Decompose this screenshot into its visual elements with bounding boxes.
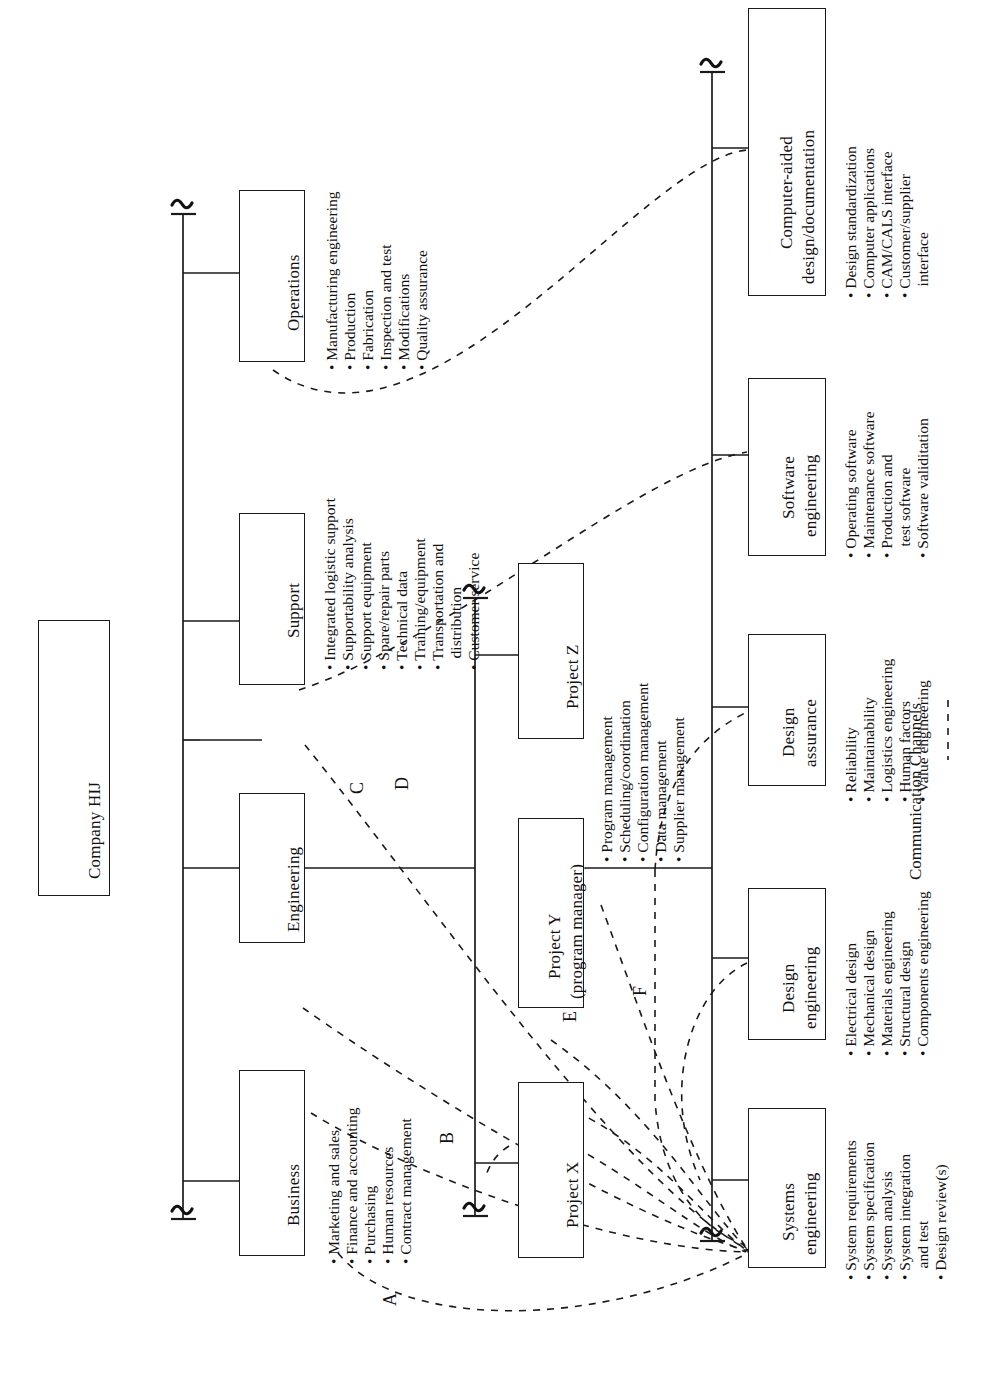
box-design-assurance[interactable]: Design assurance — [748, 634, 826, 786]
box-computer-aided-design-label: Computer-aided design/documentation — [749, 9, 825, 295]
box-design-engineering-label: Design engineering — [749, 889, 825, 1039]
org-chart-diagram: Company HIJ Business • Marketing and sal… — [0, 0, 984, 1386]
box-operations-label: Operations — [240, 191, 304, 361]
box-systems-engineering[interactable]: Systems engineering — [748, 1108, 826, 1268]
box-company-hij[interactable]: Company HIJ — [38, 620, 110, 896]
box-software-engineering[interactable]: Software engineering — [748, 378, 826, 556]
bullets-project-y: • Program management • Scheduling/coordi… — [590, 600, 700, 870]
box-design-engineering[interactable]: Design engineering — [748, 888, 826, 1040]
box-project-z-label: Project Z — [519, 564, 583, 738]
box-project-x[interactable]: Project X — [518, 1082, 584, 1258]
bullets-software-engineering: • Operating software • Maintenance softw… — [832, 378, 952, 568]
box-design-assurance-label: Design assurance — [749, 635, 825, 785]
bullets-computer-aided-design: • Design standardization • Computer appl… — [832, 8, 952, 308]
box-company-hij-label: Company HIJ — [39, 621, 109, 895]
bullets-operations: • Manufacturing engineering • Production… — [311, 190, 431, 390]
box-business[interactable]: Business — [239, 1070, 305, 1256]
bullets-design-assurance: • Reliability • Maintainability • Logist… — [832, 634, 952, 814]
bullets-support: • Integrated logistic support • Supporta… — [311, 513, 441, 713]
box-computer-aided-design[interactable]: Computer-aided design/documentation — [748, 8, 826, 296]
bullets-design-engineering: • Electrical design • Mechanical design … — [832, 888, 952, 1068]
box-operations[interactable]: Operations — [239, 190, 305, 362]
box-engineering[interactable]: Engineering — [239, 793, 305, 943]
box-project-x-label: Project X — [519, 1083, 583, 1257]
box-project-z[interactable]: Project Z — [518, 563, 584, 739]
box-project-y-label: Project Y (program manager) — [519, 819, 583, 1007]
bullets-business: • Marketing and sales • Finance and acco… — [311, 1070, 423, 1270]
box-support-label: Support — [240, 514, 304, 684]
box-engineering-label: Engineering — [240, 794, 304, 942]
box-support[interactable]: Support — [239, 513, 305, 685]
box-business-label: Business — [240, 1071, 304, 1255]
box-systems-engineering-label: Systems engineering — [749, 1109, 825, 1267]
box-project-y[interactable]: Project Y (program manager) — [518, 818, 584, 1008]
bullets-systems-engineering: • System requirements • System specifica… — [832, 1108, 952, 1288]
box-software-engineering-label: Software engineering — [749, 379, 825, 555]
